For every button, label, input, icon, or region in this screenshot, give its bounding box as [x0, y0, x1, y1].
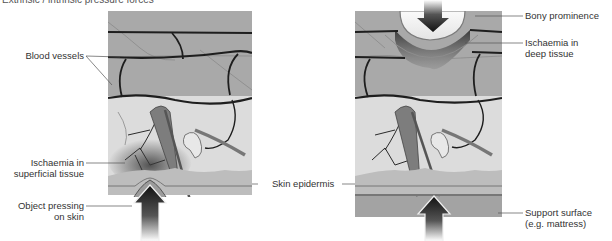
label-bony-prominence: Bony prominence	[525, 10, 599, 21]
label-ischaemia-superficial-line2: superficial tissue	[8, 168, 84, 179]
label-ischaemia-superficial-line1: Ischaemia in	[8, 157, 84, 168]
label-support-surface-line2: (e.g. mattress)	[525, 218, 586, 229]
label-ischaemia-deep-line2: deep tissue	[525, 48, 574, 59]
label-support-surface-line1: Support surface	[525, 207, 592, 218]
label-object-pressing-line2: on skin	[8, 211, 84, 222]
diagram-canvas	[0, 0, 612, 241]
left-panel	[108, 11, 252, 215]
label-ischaemia-deep-line1: Ischaemia in	[525, 37, 578, 48]
deep-tissue-layer	[108, 11, 252, 96]
right-panel	[355, 11, 502, 217]
label-blood-vessels: Blood vessels	[18, 50, 84, 61]
epidermis-layer	[355, 168, 502, 196]
vessel	[108, 32, 252, 33]
epidermis-layer	[108, 168, 252, 195]
label-object-pressing-line1: Object pressing	[8, 200, 84, 211]
label-skin-epidermis: Skin epidermis	[272, 178, 334, 189]
